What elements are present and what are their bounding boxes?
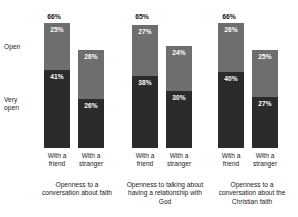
bar-segment-very-open-value: 30% (166, 94, 192, 101)
tick-line-2: stranger (74, 160, 108, 168)
bar-friend: 27% 38% (132, 25, 158, 148)
bar-segment-open: 25% (252, 50, 278, 97)
tick-line-2: friend (40, 160, 74, 168)
bar-segment-very-open-value: 41% (44, 73, 70, 80)
group-caption: Openness to a conversation about faith (38, 181, 116, 198)
bar-stranger: 24% 30% (166, 46, 192, 148)
tick-line-1: With a (248, 152, 282, 160)
bar-tick-label-friend: With a friend (40, 152, 74, 168)
axis-label-very-open-line2: open (4, 104, 40, 112)
bar-friend: 26% 40% (218, 23, 244, 148)
bar-segment-very-open-value: 27% (252, 100, 278, 107)
bar-segment-very-open: 40% (218, 72, 244, 148)
bar-friend: 25% 41% (44, 23, 70, 148)
bar-stranger: 25% 27% (252, 50, 278, 148)
bar-segment-open: 27% (132, 25, 158, 76)
tick-line-1: With a (214, 152, 248, 160)
group-total-label: 65% (127, 13, 157, 20)
bar-segment-very-open-value: 40% (218, 75, 244, 82)
tick-line-2: friend (214, 160, 248, 168)
tick-line-1: With a (40, 152, 74, 160)
chart-group: 66% 26% 40% 25% 27% With a friend With a… (212, 0, 292, 217)
bar-stranger: 26% 26% (78, 50, 104, 148)
stacked-bar-chart: Open Very open 66% 25% 41% 26% 26% With … (0, 0, 298, 217)
tick-line-2: stranger (248, 160, 282, 168)
bar-segment-open-value: 26% (218, 26, 244, 33)
bar-segment-very-open: 30% (166, 91, 192, 148)
bar-tick-label-friend: With a friend (128, 152, 162, 168)
bar-segment-very-open: 41% (44, 70, 70, 148)
bar-segment-open-value: 25% (252, 53, 278, 60)
bar-segment-open: 25% (44, 23, 70, 70)
bar-segment-very-open: 38% (132, 76, 158, 148)
bar-segment-open-value: 26% (78, 53, 104, 60)
bar-segment-very-open-value: 26% (78, 102, 104, 109)
tick-line-1: With a (162, 152, 196, 160)
bar-segment-open: 24% (166, 46, 192, 91)
axis-label-open: Open (4, 43, 40, 51)
group-caption: Openness to talking about having a relat… (126, 181, 204, 206)
bar-tick-label-stranger: With a stranger (248, 152, 282, 168)
bar-tick-label-friend: With a friend (214, 152, 248, 168)
axis-label-very-open: Very open (4, 96, 40, 112)
bar-segment-open-value: 27% (132, 28, 158, 35)
tick-line-2: stranger (162, 160, 196, 168)
bar-segment-open: 26% (218, 23, 244, 72)
bar-segment-very-open: 27% (252, 97, 278, 148)
group-total-label: 66% (39, 13, 69, 20)
axis-label-very-open-line1: Very (4, 96, 40, 104)
bar-tick-label-stranger: With a stranger (74, 152, 108, 168)
group-caption: Openness to a conversation about the Chr… (212, 181, 292, 206)
bar-segment-very-open-value: 38% (132, 79, 158, 86)
chart-group: 65% 27% 38% 24% 30% With a friend With a… (126, 0, 204, 217)
group-total-label: 66% (214, 13, 244, 20)
chart-group: 66% 25% 41% 26% 26% With a friend With a… (38, 0, 116, 217)
tick-line-1: With a (74, 152, 108, 160)
tick-line-1: With a (128, 152, 162, 160)
bar-segment-open-value: 25% (44, 26, 70, 33)
tick-line-2: friend (128, 160, 162, 168)
bar-segment-open-value: 24% (166, 49, 192, 56)
bar-tick-label-stranger: With a stranger (162, 152, 196, 168)
bar-segment-very-open: 26% (78, 99, 104, 148)
bar-segment-open: 26% (78, 50, 104, 99)
